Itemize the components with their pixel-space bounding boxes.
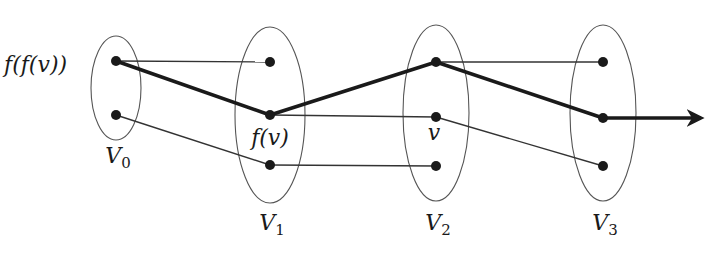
set-label-v3: V3 bbox=[592, 210, 617, 239]
labels: V0V1V2V3f(f(v))f(v)v bbox=[2, 52, 618, 239]
vertex-label-1: f(v) bbox=[249, 125, 289, 150]
set-ellipse-v0 bbox=[91, 36, 141, 140]
thin-edges bbox=[116, 61, 603, 166]
highlighted-path bbox=[116, 61, 701, 118]
vertex-b2 bbox=[265, 160, 275, 170]
iterated-function-path-diagram: V0V1V2V3f(f(v))f(v)v bbox=[0, 0, 727, 258]
vertex-c0 bbox=[431, 57, 441, 67]
set-ellipses bbox=[91, 25, 636, 203]
set-label-v2: V2 bbox=[425, 210, 450, 239]
edge-c1-d2 bbox=[436, 117, 603, 166]
edge-a0-b0 bbox=[116, 61, 270, 62]
edge-a1-b2 bbox=[116, 115, 270, 165]
vertex-c2 bbox=[431, 161, 441, 171]
set-label-v0: V0 bbox=[105, 143, 130, 172]
vertex-b0 bbox=[265, 57, 275, 67]
path-edge-c0-d1 bbox=[436, 62, 603, 118]
vertices bbox=[111, 56, 608, 171]
vertex-d2 bbox=[598, 161, 608, 171]
vertex-d1 bbox=[598, 113, 608, 123]
vertex-a0 bbox=[111, 56, 121, 66]
vertex-d0 bbox=[598, 57, 608, 67]
vertex-a1 bbox=[111, 110, 121, 120]
vertex-label-0: f(f(v)) bbox=[2, 52, 67, 77]
vertex-label-2: v bbox=[428, 120, 441, 145]
edge-b1-c1 bbox=[270, 115, 436, 117]
set-label-v1: V1 bbox=[259, 210, 284, 239]
vertex-b1 bbox=[265, 110, 275, 120]
path-edge-b1-c0 bbox=[270, 62, 436, 115]
edge-b2-c2 bbox=[270, 165, 436, 166]
